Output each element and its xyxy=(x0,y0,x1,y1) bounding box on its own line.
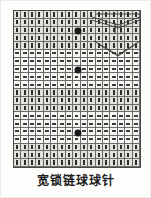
stitch-cell xyxy=(133,73,140,81)
stitch-cell xyxy=(44,42,51,50)
stitch-cell xyxy=(36,73,43,81)
stitch-chart xyxy=(13,10,141,168)
stitch-cell xyxy=(81,27,88,35)
stitch-cell xyxy=(66,105,73,113)
vertical-stitch-icon xyxy=(83,90,85,94)
stitch-cell xyxy=(110,128,117,136)
vertical-stitch-icon xyxy=(113,12,115,16)
stitch-cell xyxy=(29,97,36,105)
stitch-cell xyxy=(14,42,21,50)
horizontal-stitch-icon xyxy=(37,123,41,125)
stitch-cell xyxy=(73,151,80,159)
vertical-stitch-icon xyxy=(98,98,100,102)
horizontal-stitch-icon xyxy=(89,84,93,86)
stitch-cell xyxy=(96,105,103,113)
vertical-stitch-icon xyxy=(120,153,122,157)
vertical-stitch-icon xyxy=(90,160,92,164)
stitch-cell xyxy=(66,144,73,152)
stitch-cell xyxy=(81,73,88,81)
horizontal-stitch-icon xyxy=(15,60,19,62)
stitch-cell xyxy=(21,34,28,42)
stitch-cell xyxy=(51,136,58,144)
horizontal-stitch-icon xyxy=(134,123,138,125)
horizontal-stitch-icon xyxy=(60,52,64,54)
stitch-cell xyxy=(36,112,43,120)
stitch-cell xyxy=(58,66,65,74)
horizontal-stitch-icon xyxy=(52,60,56,62)
stitch-cell xyxy=(103,27,110,35)
stitch-cell xyxy=(36,81,43,89)
stitch-cell xyxy=(96,66,103,74)
stitch-cell xyxy=(44,144,51,152)
stitch-cell xyxy=(51,81,58,89)
vertical-stitch-icon xyxy=(61,36,63,40)
stitch-cell xyxy=(73,19,80,27)
stitch-cell xyxy=(66,66,73,74)
vertical-stitch-icon xyxy=(98,145,100,149)
stitch-cell xyxy=(21,136,28,144)
vertical-stitch-icon xyxy=(38,106,40,110)
stitch-cell xyxy=(118,11,125,19)
horizontal-stitch-icon xyxy=(52,52,56,54)
vertical-stitch-icon xyxy=(75,160,77,164)
stitch-cell xyxy=(44,105,51,113)
horizontal-stitch-icon xyxy=(45,68,49,70)
vertical-stitch-icon xyxy=(98,90,100,94)
stitch-cell xyxy=(58,34,65,42)
stitch-cell xyxy=(81,58,88,66)
stitch-cell xyxy=(29,151,36,159)
horizontal-stitch-icon xyxy=(119,52,123,54)
stitch-cell xyxy=(81,120,88,128)
horizontal-stitch-icon xyxy=(45,76,49,78)
vertical-stitch-icon xyxy=(90,12,92,16)
vertical-stitch-icon xyxy=(46,98,48,102)
stitch-cell xyxy=(103,105,110,113)
vertical-stitch-icon xyxy=(127,36,129,40)
horizontal-stitch-icon xyxy=(45,123,49,125)
stitch-cell xyxy=(36,11,43,19)
horizontal-stitch-icon xyxy=(97,115,101,117)
stitch-cell xyxy=(14,34,21,42)
horizontal-stitch-icon xyxy=(23,84,27,86)
stitch-cell xyxy=(81,136,88,144)
stitch-cell xyxy=(133,144,140,152)
vertical-stitch-icon xyxy=(38,36,40,40)
stitch-cell xyxy=(110,73,117,81)
horizontal-stitch-icon xyxy=(15,52,19,54)
horizontal-stitch-icon xyxy=(134,76,138,78)
bobble-stitch-icon xyxy=(75,130,82,137)
stitch-cell xyxy=(51,128,58,136)
stitch-cell xyxy=(44,19,51,27)
stitch-cell xyxy=(21,19,28,27)
horizontal-stitch-icon xyxy=(112,130,116,132)
vertical-stitch-icon xyxy=(90,36,92,40)
horizontal-stitch-icon xyxy=(112,60,116,62)
stitch-cell xyxy=(36,50,43,58)
stitch-cell xyxy=(73,144,80,152)
stitch-cell xyxy=(88,42,95,50)
stitch-cell xyxy=(44,97,51,105)
stitch-cell xyxy=(21,50,28,58)
stitch-cell xyxy=(44,66,51,74)
stitch-cell xyxy=(125,27,132,35)
stitch-cell xyxy=(125,89,132,97)
stitch-cell xyxy=(125,128,132,136)
vertical-stitch-icon xyxy=(53,90,55,94)
stitch-cell xyxy=(51,151,58,159)
vertical-stitch-icon xyxy=(75,90,77,94)
vertical-stitch-icon xyxy=(68,12,70,16)
stitch-cell xyxy=(125,73,132,81)
vertical-stitch-icon xyxy=(31,160,33,164)
horizontal-stitch-icon xyxy=(134,84,138,86)
stitch-cell xyxy=(44,73,51,81)
stitch-cell xyxy=(66,11,73,19)
vertical-stitch-icon xyxy=(120,160,122,164)
stitch-cell xyxy=(36,159,43,167)
stitch-cell xyxy=(103,151,110,159)
horizontal-stitch-icon xyxy=(23,68,27,70)
horizontal-stitch-icon xyxy=(119,68,123,70)
stitch-cell xyxy=(118,42,125,50)
stitch-cell xyxy=(133,11,140,19)
stitch-cell xyxy=(96,97,103,105)
vertical-stitch-icon xyxy=(75,36,77,40)
